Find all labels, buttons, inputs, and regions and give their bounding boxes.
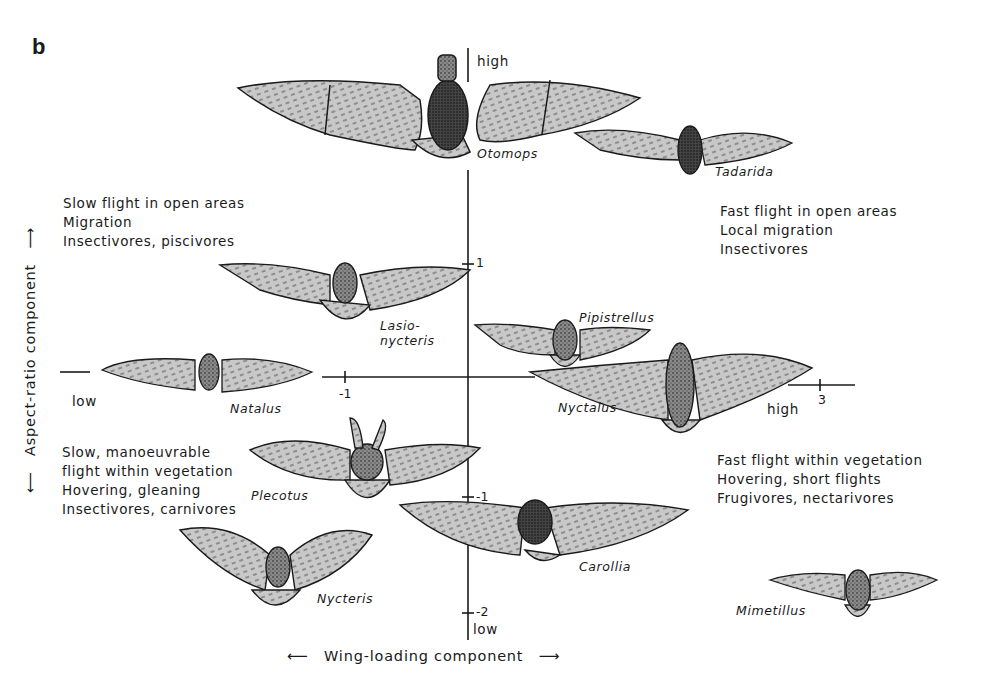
y-axis-high-label: high: [477, 52, 509, 71]
arrow-right-icon: ⟶: [539, 648, 561, 664]
bat-otomops-illustration: [238, 55, 640, 158]
bat-label-lasionycteris-2: nycteris: [380, 333, 435, 348]
bat-plecotus-illustration: [250, 418, 480, 498]
quadrant-text-line: Migration: [63, 213, 245, 232]
x-axis-title: Wing-loading component: [324, 648, 523, 664]
bat-label-tadarida: Tadarida: [715, 164, 774, 179]
quadrant-text-line: Insectivores, carnivores: [62, 500, 236, 519]
bat-natalus-illustration: [102, 354, 312, 392]
quadrant-text-line: Hovering, short flights: [717, 470, 923, 489]
bat-label-nycteris: Nycteris: [317, 591, 373, 606]
quadrant-text-line: Hovering, gleaning: [62, 481, 236, 500]
quadrant-bottom-left: Slow, manoeuvrable flight within vegetat…: [62, 443, 236, 519]
bat-label-lasionycteris-1: Lasio-: [380, 318, 420, 333]
x-axis-high-label: high: [767, 400, 799, 419]
quadrant-text-line: flight within vegetation: [62, 462, 236, 481]
bat-label-carollia: Carollia: [579, 559, 631, 574]
quadrant-top-left: Slow flight in open areas Migration Inse…: [63, 194, 245, 251]
x-axis-low-label: low: [72, 392, 97, 411]
bat-carollia-illustration: [400, 500, 688, 560]
x-tick-3: 3: [818, 392, 826, 407]
arrow-left-icon: ⟵: [287, 648, 309, 664]
bat-label-otomops: Otomops: [477, 146, 538, 161]
bat-label-pipistrellus: Pipistrellus: [579, 310, 654, 325]
y-axis-title: Aspect-ratio component: [22, 264, 38, 456]
x-tick-minus-1: -1: [339, 386, 351, 401]
bat-label-natalus: Natalus: [230, 401, 282, 416]
arrow-up-icon: ⟶: [22, 227, 38, 249]
quadrant-text-line: Fast flight in open areas: [720, 202, 897, 221]
quadrant-bottom-right: Fast flight within vegetation Hovering, …: [717, 451, 923, 508]
y-tick-1: 1: [476, 255, 484, 270]
quadrant-text-line: Insectivores, piscivores: [63, 232, 245, 251]
y-axis-title-row: ⟵ Aspect-ratio component ⟶: [22, 227, 38, 493]
quadrant-text-line: Frugivores, nectarivores: [717, 489, 923, 508]
bat-pipistrellus-illustration: [475, 320, 650, 367]
arrow-down-icon: ⟵: [22, 472, 38, 494]
bat-label-nyctalus: Nyctalus: [558, 400, 617, 415]
quadrant-text-line: Slow, manoeuvrable: [62, 443, 236, 462]
bat-lasionycteris-illustration: [220, 263, 470, 319]
bat-label-mimetillus: Mimetillus: [736, 603, 806, 618]
quadrant-text-line: Insectivores: [720, 240, 897, 259]
quadrant-text-line: Slow flight in open areas: [63, 194, 245, 213]
quadrant-text-line: Local migration: [720, 221, 897, 240]
y-tick-minus-2: -2: [476, 604, 488, 619]
quadrant-top-right: Fast flight in open areas Local migratio…: [720, 202, 897, 259]
diagram-canvas: [0, 0, 987, 687]
quadrant-text-line: Fast flight within vegetation: [717, 451, 923, 470]
x-axis-title-row: ⟵ Wing-loading component ⟶: [287, 648, 560, 664]
y-tick-minus-1: -1: [476, 489, 488, 504]
bat-label-plecotus: Plecotus: [251, 488, 308, 503]
y-axis-low-label: low: [473, 620, 498, 639]
